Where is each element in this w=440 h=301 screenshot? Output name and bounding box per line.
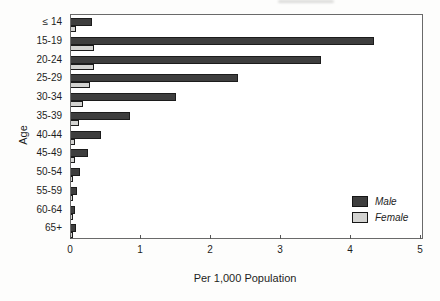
x-tick-mark [420, 235, 421, 239]
x-tick-label: 4 [340, 244, 360, 255]
x-tick-mark [70, 235, 71, 239]
female-swatch-icon [352, 212, 368, 223]
x-tick-label: 0 [60, 244, 80, 255]
x-tick-label: 5 [410, 244, 430, 255]
legend: Male Female [352, 196, 408, 228]
x-tick-label: 2 [200, 244, 220, 255]
x-tick-label: 3 [270, 244, 290, 255]
x-axis: 012345 [0, 0, 440, 301]
x-tick-mark [350, 235, 351, 239]
x-tick-mark [280, 235, 281, 239]
x-tick-mark [140, 235, 141, 239]
x-tick-label: 1 [130, 244, 150, 255]
bar-chart: Age ≤ 1415-1920-2425-2930-3435-3940-4445… [0, 0, 440, 301]
legend-item-male: Male [352, 196, 408, 207]
legend-label-female: Female [375, 212, 408, 223]
x-tick-mark [210, 235, 211, 239]
x-axis-title: Per 1,000 Population [125, 272, 365, 284]
legend-label-male: Male [375, 196, 397, 207]
male-swatch-icon [352, 196, 368, 207]
legend-item-female: Female [352, 212, 408, 223]
